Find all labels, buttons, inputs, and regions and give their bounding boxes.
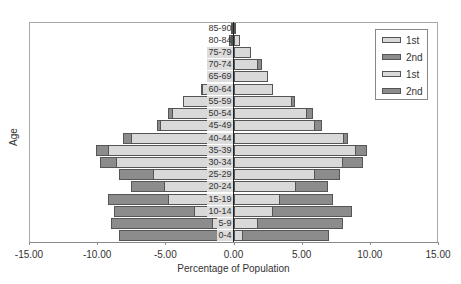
bar-right-1st — [234, 145, 357, 156]
x-axis-title: Percentage of Population — [0, 263, 461, 274]
age-group-label: 80-84 — [207, 35, 232, 46]
age-group-label: 10-14 — [207, 206, 232, 217]
x-tick-label: -5.00 — [140, 249, 190, 260]
bar-right-1st — [234, 84, 274, 95]
age-group-label: 75-79 — [207, 47, 232, 58]
bar-right-1st — [234, 71, 268, 82]
population-pyramid-chart: 0-45-910-1415-1920-2425-2930-3435-3940-4… — [0, 0, 461, 284]
bar-left-2nd — [119, 230, 234, 241]
x-tick-label: -15.00 — [4, 249, 54, 260]
bar-right-1st — [234, 194, 280, 205]
age-group-label: 85-90 — [207, 23, 232, 34]
legend-item-2nd: 2nd — [382, 85, 423, 97]
legend-label: 1st — [406, 35, 419, 46]
age-group-label: 5-9 — [217, 218, 232, 229]
bar-right-1st — [234, 181, 297, 192]
bar-right-2nd — [234, 230, 329, 241]
bar-right-1st — [234, 157, 343, 168]
bar-right-1st — [234, 35, 240, 46]
x-tick-mark — [29, 242, 30, 245]
age-group-label: 35-39 — [207, 145, 232, 156]
age-group-label: 0-4 — [217, 230, 232, 241]
x-tick-label: 0.00 — [209, 249, 259, 260]
age-group-label: 25-29 — [207, 169, 232, 180]
age-group-label: 55-59 — [207, 96, 232, 107]
age-group-label: 20-24 — [207, 181, 232, 192]
legend-label: 2nd — [406, 52, 423, 63]
x-tick-label: -10.00 — [72, 249, 122, 260]
x-tick-label: 5.00 — [277, 249, 327, 260]
bar-right-1st — [234, 96, 293, 107]
legend-item-2nd: 2nd — [382, 51, 423, 63]
bar-right-1st — [234, 59, 259, 70]
age-group-label: 40-44 — [207, 133, 232, 144]
x-tick-label: 15.00 — [413, 249, 461, 260]
bar-right-1st — [234, 133, 344, 144]
bar-right-1st — [234, 120, 316, 131]
zero-axis-line — [233, 22, 234, 242]
age-group-label: 15-19 — [207, 194, 232, 205]
legend-swatch — [382, 54, 401, 60]
age-group-label: 60-64 — [207, 84, 232, 95]
x-tick-mark — [234, 242, 235, 245]
age-group-label: 30-34 — [207, 157, 232, 168]
age-group-label: 50-54 — [207, 108, 232, 119]
legend-swatch — [382, 37, 401, 43]
legend-item-1st: 1st — [382, 68, 419, 80]
x-tick-mark — [370, 242, 371, 245]
x-tick-mark — [302, 242, 303, 245]
x-tick-mark — [438, 242, 439, 245]
age-group-label: 45-49 — [207, 120, 232, 131]
y-axis-title: Age — [8, 128, 19, 146]
legend-label: 1st — [406, 69, 419, 80]
legend-swatch — [382, 71, 401, 77]
bar-right-1st — [234, 47, 252, 58]
legend-label: 2nd — [406, 86, 423, 97]
bar-right-1st — [234, 169, 316, 180]
x-tick-mark — [165, 242, 166, 245]
legend-item-1st: 1st — [382, 34, 419, 46]
bar-right-1st — [234, 206, 274, 217]
bar-right-1st — [234, 218, 259, 229]
age-group-label: 65-69 — [207, 71, 232, 82]
bar-right-1st — [234, 108, 308, 119]
bar-right-1st — [234, 230, 244, 241]
age-group-label: 70-74 — [207, 59, 232, 70]
legend: 1st 2nd 1st 2nd — [375, 29, 428, 100]
x-tick-mark — [97, 242, 98, 245]
legend-swatch — [382, 88, 401, 94]
x-tick-label: 10.00 — [345, 249, 395, 260]
